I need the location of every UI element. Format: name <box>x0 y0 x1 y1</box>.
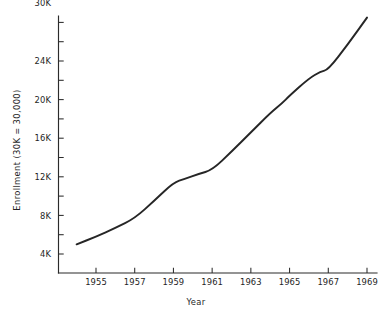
x-axis-tick-labels: 19551957195919611963196519671969 <box>85 277 378 287</box>
x-axis-tick-label: 1967 <box>317 277 339 287</box>
y-axis-tick-label: 24K <box>35 56 52 66</box>
y-axis-tick-labels: 4K8K12K16K20K24K30K <box>35 0 52 259</box>
enrollment-data-line <box>77 18 367 245</box>
y-axis-title: Enrollment (30K = 30,000) <box>12 89 22 210</box>
y-axis-tick-label: 20K <box>35 95 52 105</box>
x-axis-tick-label: 1959 <box>163 277 185 287</box>
y-axis-tick-label: 12K <box>35 172 52 182</box>
x-axis-title: Year <box>185 297 205 307</box>
x-axis-tick-label: 1957 <box>124 277 146 287</box>
y-axis-tick-label: 30K <box>35 0 52 8</box>
y-axis-tick-label: 4K <box>40 249 51 259</box>
line-chart: 4K8K12K16K20K24K30K 19551957195919611963… <box>0 0 389 320</box>
x-axis-tick-label: 1961 <box>201 277 223 287</box>
x-axis-tick-label: 1955 <box>85 277 107 287</box>
y-axis-tick-label: 16K <box>35 133 52 143</box>
x-axis-tick-label: 1965 <box>279 277 301 287</box>
y-axis-tick-label: 8K <box>40 211 51 221</box>
y-axis-tick-group <box>59 22 64 254</box>
x-axis-tick-label: 1963 <box>240 277 262 287</box>
x-axis-tick-label: 1969 <box>356 277 378 287</box>
x-axis-tick-group <box>96 268 367 273</box>
